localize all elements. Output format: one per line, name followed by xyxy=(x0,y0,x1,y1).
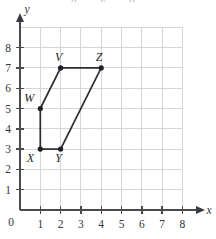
y-tick-label-2: 2 xyxy=(5,163,11,175)
vertex-label-W: W xyxy=(24,91,35,105)
vertex-dot-Z xyxy=(99,65,104,70)
x-axis-label: x xyxy=(205,204,212,216)
x-tick-label-6: 6 xyxy=(139,218,145,230)
vertex-dot-X xyxy=(38,147,43,152)
x-tick-label-3: 3 xyxy=(78,218,84,230)
origin-label: 0 xyxy=(8,216,14,228)
y-tick-label-7: 7 xyxy=(5,62,11,74)
vertex-dot-V xyxy=(58,65,63,70)
x-tick-label-4: 4 xyxy=(98,218,104,230)
y-tick-label-3: 3 xyxy=(5,143,11,155)
y-tick-label-8: 8 xyxy=(5,42,11,54)
x-tick-label-7: 7 xyxy=(159,218,165,230)
x-tick-label-1: 1 xyxy=(37,218,43,230)
vertex-label-Y: Y xyxy=(55,151,63,165)
vertex-label-V: V xyxy=(55,50,64,64)
coordinate-plane-figure: g y p 12345678123456780xyWVZYX xyxy=(0,0,216,239)
y-axis-arrowhead xyxy=(16,13,24,22)
vertex-label-Z: Z xyxy=(96,50,103,64)
vertex-label-X: X xyxy=(26,151,35,165)
axes-layer xyxy=(16,13,205,214)
x-axis-arrowhead xyxy=(196,206,205,214)
y-tick-label-1: 1 xyxy=(5,184,11,196)
y-tick-label-5: 5 xyxy=(5,103,11,115)
text-labels-layer: 12345678123456780xyWVZYX xyxy=(5,3,212,230)
x-tick-label-8: 8 xyxy=(180,218,186,230)
x-tick-label-2: 2 xyxy=(58,218,64,230)
x-tick-label-5: 5 xyxy=(119,218,125,230)
coordinate-plot: 12345678123456780xyWVZYX xyxy=(0,0,216,239)
y-tick-label-4: 4 xyxy=(5,123,11,135)
y-axis-label: y xyxy=(23,3,30,16)
vertex-dot-W xyxy=(38,106,43,111)
y-tick-label-6: 6 xyxy=(5,82,11,94)
